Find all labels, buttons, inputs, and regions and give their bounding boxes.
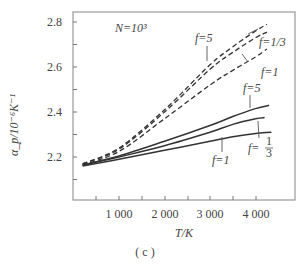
- x-axis-tick-labels: 1 000 2 000 3 000 4 000: [106, 207, 270, 221]
- label-dashed-f5: f=5: [195, 31, 212, 45]
- y-axis-label: α_p/10⁻⁶K⁻¹: [7, 94, 21, 156]
- svg-text:2.8: 2.8: [47, 15, 62, 29]
- y-axis-tick-labels: 2.8 2.6 2.4 2.2: [47, 15, 62, 164]
- series-layer: [83, 24, 272, 166]
- label-dashed-f13: f=1/3: [259, 35, 286, 49]
- svg-text:3: 3: [266, 146, 272, 160]
- svg-text:f=: f=: [248, 141, 259, 155]
- svg-text:2 000: 2 000: [152, 207, 179, 221]
- caption: ( c ): [135, 245, 154, 259]
- label-solid-f13: f= 1 3: [248, 134, 273, 160]
- label-solid-f5: f=5: [243, 81, 260, 95]
- label-dashed-f1: f=1: [261, 65, 278, 79]
- svg-text:2.6: 2.6: [47, 60, 62, 74]
- svg-text:2.4: 2.4: [47, 105, 62, 119]
- svg-text:1 000: 1 000: [106, 207, 133, 221]
- svg-text:4 000: 4 000: [243, 207, 270, 221]
- x-axis-label: T/K: [175, 226, 194, 240]
- chart: 2.8 2.6 2.4 2.2 1 000 2 000 3 000 4 000 …: [0, 0, 306, 265]
- x-axis-ticks: [96, 196, 256, 200]
- svg-text:2.2: 2.2: [47, 150, 62, 164]
- series-line-1: [83, 32, 267, 164]
- svg-text:3 000: 3 000: [197, 207, 224, 221]
- label-solid-f1: f=1: [212, 153, 229, 167]
- annotation-n: N=10³: [114, 21, 147, 35]
